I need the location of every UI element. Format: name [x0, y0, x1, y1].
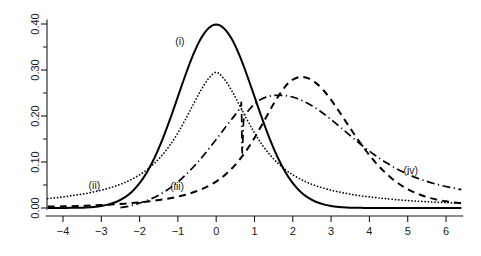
x-tick-label: 6 — [443, 225, 449, 237]
annotation-label-i: (i) — [175, 35, 184, 47]
x-tick-label: 1 — [251, 225, 257, 237]
curve-i — [48, 25, 462, 208]
x-tick-label: 0 — [213, 225, 219, 237]
x-tick-label: −4 — [57, 225, 70, 237]
y-axis: 0.000.100.200.300.40 — [29, 13, 47, 218]
curve-annotations-group: (i)(ii)(iii)(iv) — [89, 35, 418, 192]
x-tick-label: 5 — [405, 225, 411, 237]
y-tick-label: 0.30 — [29, 59, 41, 80]
chart-canvas: 0.000.100.200.300.40 −4−3−2−10123456 (i)… — [0, 0, 481, 256]
x-tick-label: −3 — [95, 225, 108, 237]
density-curves-figure: 0.000.100.200.300.40 −4−3−2−10123456 (i)… — [0, 0, 481, 256]
annotation-label-iv: (iv) — [403, 164, 418, 176]
x-tick-label: −1 — [172, 225, 185, 237]
y-tick-label: 0.10 — [29, 151, 41, 172]
x-tick-label: 3 — [328, 225, 334, 237]
annotation-label-ii: (ii) — [89, 179, 101, 191]
curve-series-group — [48, 25, 462, 208]
x-tick-label: 2 — [290, 225, 296, 237]
x-tick-label: −2 — [133, 225, 146, 237]
y-tick-label: 0.40 — [29, 13, 41, 34]
x-axis: −4−3−2−10123456 — [46, 216, 463, 237]
y-tick-label: 0.20 — [29, 105, 41, 126]
y-tick-label: 0.00 — [29, 197, 41, 218]
x-tick-label: 4 — [366, 225, 372, 237]
annotation-label-iii: (iii) — [170, 180, 184, 192]
